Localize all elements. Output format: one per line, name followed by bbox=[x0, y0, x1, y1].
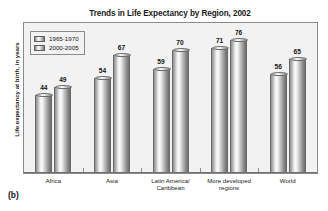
legend-label-series-1: 1965-1970 bbox=[49, 35, 79, 42]
y-axis-title: Life expectancy at birth, in years bbox=[13, 30, 20, 150]
bar: 56 bbox=[270, 74, 287, 172]
legend-swatch-icon bbox=[34, 36, 45, 42]
bar-group: 7176 bbox=[211, 24, 247, 172]
bar: 71 bbox=[211, 48, 228, 172]
bar: 49 bbox=[54, 87, 71, 172]
legend-label-series-2: 2000-2005 bbox=[49, 44, 79, 51]
bar-cylinder bbox=[230, 40, 247, 172]
category-label: World bbox=[252, 177, 323, 184]
bar-cap bbox=[290, 57, 307, 61]
bar-value-label: 54 bbox=[90, 67, 115, 74]
bar: 70 bbox=[172, 50, 189, 172]
bar-group: 5467 bbox=[94, 24, 130, 172]
bar-cap bbox=[55, 85, 72, 89]
bar-cylinder bbox=[289, 59, 306, 172]
legend-item-series-2: 2000-2005 bbox=[34, 43, 79, 52]
bar-cap bbox=[154, 67, 171, 71]
bar-value-label: 49 bbox=[50, 76, 75, 83]
x-axis-tick bbox=[83, 168, 84, 172]
bar: 54 bbox=[94, 78, 111, 172]
category-label-line: regions bbox=[194, 184, 265, 191]
bar: 67 bbox=[113, 55, 130, 172]
x-axis-tick bbox=[141, 168, 142, 172]
bar-value-label: 65 bbox=[285, 48, 310, 55]
legend-item-series-1: 1965-1970 bbox=[34, 34, 79, 43]
bar: 59 bbox=[153, 69, 170, 172]
bar-cap bbox=[212, 46, 229, 50]
bar-value-label: 44 bbox=[31, 84, 56, 91]
bar-value-label: 71 bbox=[207, 37, 232, 44]
bar-cylinder bbox=[153, 69, 170, 172]
bar-value-label: 67 bbox=[109, 44, 134, 51]
bar: 76 bbox=[230, 40, 247, 172]
bar-cylinder bbox=[211, 48, 228, 172]
bar: 65 bbox=[289, 59, 306, 172]
bar-group: 5970 bbox=[153, 24, 189, 172]
bar-value-label: 76 bbox=[226, 29, 251, 36]
bar-cylinder bbox=[54, 87, 71, 172]
chart-title: Trends in Life Expectancy by Region, 200… bbox=[20, 9, 320, 18]
bar-cylinder bbox=[94, 78, 111, 172]
chart-legend: 1965-1970 2000-2005 bbox=[30, 31, 85, 55]
bar-cylinder bbox=[35, 95, 52, 172]
bar-value-label: 56 bbox=[266, 63, 291, 70]
category-label-line: World bbox=[252, 177, 323, 184]
bar-cap bbox=[114, 53, 131, 57]
bar-cap bbox=[231, 38, 248, 42]
bar-cap bbox=[271, 72, 288, 76]
bar-cylinder bbox=[172, 50, 189, 172]
figure-panel: Trends in Life Expectancy by Region, 200… bbox=[0, 0, 328, 211]
bar-cap bbox=[36, 93, 53, 97]
panel-letter: (b) bbox=[8, 190, 19, 200]
bar-group: 5665 bbox=[270, 24, 306, 172]
bar: 44 bbox=[35, 95, 52, 172]
bar-cylinder bbox=[113, 55, 130, 172]
bar-value-label: 70 bbox=[168, 39, 193, 46]
x-axis-baseline bbox=[24, 172, 317, 173]
bar-value-label: 59 bbox=[149, 58, 174, 65]
bar-cylinder bbox=[270, 74, 287, 172]
x-axis-tick bbox=[200, 168, 201, 172]
bar-cap bbox=[173, 48, 190, 52]
x-axis-tick bbox=[258, 168, 259, 172]
bar-cap bbox=[95, 76, 112, 80]
legend-swatch-icon bbox=[34, 45, 45, 51]
